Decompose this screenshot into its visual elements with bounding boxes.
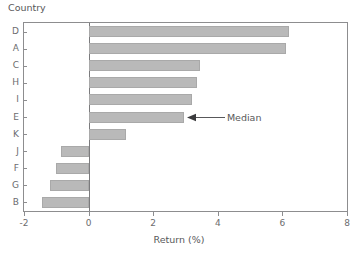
bar-d [89,26,289,37]
y-tick-label-d: D [4,27,19,36]
bar-a [89,43,286,54]
y-tick-k [23,134,27,135]
y-tick-label-i: I [4,95,19,104]
x-tick-0 [24,212,25,216]
annotation-median: Median [187,112,262,123]
y-tick-j [23,151,27,152]
y-tick-label-b: B [4,198,19,207]
x-tick-label-4: 6 [280,218,286,229]
y-tick-label-h: H [4,78,19,87]
y-tick-e [23,117,27,118]
y-tick-h [23,83,27,84]
y-tick-label-a: A [4,44,19,53]
bar-chart: Country DACHIEKJFGB-202468 Return (%) Me… [0,0,358,254]
bar-k [89,129,126,140]
bar-g [50,180,89,191]
annotation-label: Median [227,112,262,123]
x-tick-1 [89,212,90,216]
bar-e [89,112,184,123]
y-tick-label-k: K [4,130,19,139]
y-tick-c [23,66,27,67]
plot-area [24,23,347,211]
y-tick-label-f: F [4,164,19,173]
bar-b [42,197,89,208]
y-tick-i [23,100,27,101]
x-tick-label-0: -2 [20,218,29,229]
y-tick-label-e: E [4,113,19,122]
y-tick-a [23,49,27,50]
x-tick-2 [153,212,154,216]
y-tick-label-c: C [4,61,19,70]
x-tick-label-1: 0 [86,218,92,229]
bar-i [89,94,192,105]
x-tick-5 [347,212,348,216]
bar-h [89,77,197,88]
y-tick-g [23,185,27,186]
y-tick-f [23,168,27,169]
y-axis-caption: Country [8,2,46,14]
x-tick-4 [282,212,283,216]
bar-j [61,146,88,157]
y-tick-label-j: J [4,147,19,156]
x-tick-label-5: 8 [344,218,350,229]
x-tick-label-2: 2 [150,218,156,229]
x-tick-label-3: 4 [215,218,221,229]
y-tick-label-g: G [4,181,19,190]
y-tick-d [23,32,27,33]
left-arrow-icon [187,112,225,123]
bar-f [56,163,88,174]
x-axis-title: Return (%) [0,234,358,246]
bar-c [89,60,200,71]
x-tick-3 [218,212,219,216]
y-tick-b [23,202,27,203]
